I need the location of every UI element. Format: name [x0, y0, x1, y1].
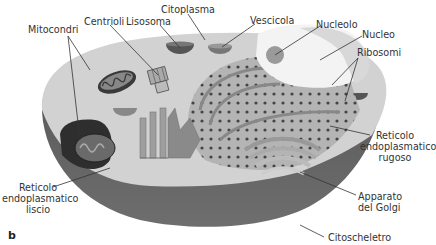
- golgi-line2: del Golgi: [358, 202, 402, 213]
- rer-line3: rugoso: [360, 152, 430, 163]
- rer-line1: Reticolo: [360, 130, 430, 141]
- rer-line2: endoplasmatico: [360, 141, 430, 152]
- label-nucleo: Nucleo: [362, 29, 395, 40]
- label-vescicola: Vescicola: [250, 15, 294, 26]
- label-centrioli: Centrioli: [84, 16, 124, 27]
- label-reticolo-rugoso: Reticolo endoplasmatico rugoso: [360, 130, 430, 163]
- golgi-line1: Apparato: [358, 191, 402, 202]
- panel-letter: b: [8, 229, 16, 242]
- ser-line1: Reticolo: [2, 182, 74, 193]
- mitochondrion-2: [75, 134, 115, 162]
- label-reticolo-liscio: Reticolo endoplasmatico liscio: [2, 182, 74, 215]
- label-lisosoma: Lisosoma: [126, 16, 171, 27]
- label-apparato-golgi: Apparato del Golgi: [358, 191, 402, 213]
- label-mitocondri: Mitocondri: [28, 24, 79, 35]
- label-nucleolo: Nucleolo: [316, 19, 358, 30]
- label-citoplasma: Citoplasma: [161, 4, 215, 15]
- label-citoscheletro: Citoscheletro: [328, 232, 391, 243]
- ser-line3: liscio: [2, 204, 74, 215]
- label-ribosomi: Ribosomi: [357, 47, 401, 58]
- ser-line2: endoplasmatico: [2, 193, 74, 204]
